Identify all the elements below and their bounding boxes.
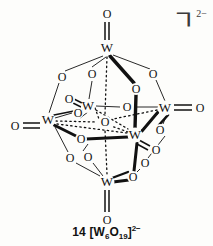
atom-label-w-right: W (159, 100, 172, 115)
bond-ob1-wleft (49, 83, 59, 113)
atom-label-o-bridge-2: O (88, 67, 97, 81)
atom-label-w-left: W (42, 112, 55, 127)
atom-label-o-bridge-5: O (74, 106, 83, 120)
atom-label-o-bridge-1: O (58, 70, 67, 84)
bond-ob2-wback (89, 81, 92, 99)
atom-label-o-bridge-12: O (129, 170, 138, 184)
atom-label-w-back: W (82, 98, 95, 113)
formula-o-subscript: 19 (119, 232, 128, 241)
bond-ob9-wbottom (76, 163, 100, 176)
atom-label-o-terminal-right: O (196, 101, 205, 115)
atom-label-o-bridge-11: O (141, 156, 150, 170)
atom-label-o-bridge-8: O (156, 123, 165, 137)
bond-wtop-ob3-bold (110, 56, 134, 83)
bond-wtop-ob2 (92, 57, 106, 67)
bond-wbottom-front-bold (112, 172, 128, 178)
bond-wleft-ocenter (56, 121, 97, 122)
caption-number: 14 (72, 225, 85, 239)
bond-ob3-wfront-bold (135, 95, 136, 128)
atom-label-o-bridge-10: O (84, 150, 93, 164)
bond-wback-ob6 (96, 106, 120, 107)
bond-wfront-ofront-b (137, 144, 148, 150)
atom-label-w-top: W (101, 40, 114, 55)
figure-container: ┐2− (0, 0, 213, 246)
bond-ob11-ob12 (137, 169, 140, 172)
atom-label-o-center: O (101, 115, 110, 129)
bond-ob4-wright (156, 80, 165, 101)
bridging-oxygen-group: O O O O O O O O O O O O (56, 67, 166, 184)
formula-o: O (109, 225, 118, 239)
bond-ob12-wbottom-bold (113, 180, 129, 182)
atom-label-o-terminal-front: O (152, 143, 161, 157)
atom-label-o-bridge-3: O (132, 82, 141, 96)
bond-wback-oback-a (74, 99, 82, 103)
bond-wfront-ob12-bold (134, 143, 137, 171)
atom-label-w-bottom: W (101, 174, 114, 189)
figure-caption: 14[W6O19]2− (0, 224, 213, 241)
atom-label-o-terminal-top: O (103, 7, 112, 21)
structure-drawing: W W W W W W O O O O O (0, 0, 213, 246)
atom-label-o-bridge-4: O (149, 67, 158, 81)
atom-label-w-front: W (129, 127, 142, 142)
formula-charge: 2− (132, 224, 141, 233)
atom-label-o-terminal-back: O (65, 92, 74, 106)
atom-label-o-terminal-left: O (11, 119, 20, 133)
atom-label-o-bridge-6: O (123, 100, 132, 114)
atom-label-o-bridge-9: O (66, 151, 75, 165)
central-oxygen-group: O (99, 115, 112, 129)
bond-wtop-ocenter (105, 57, 107, 114)
bond-ob7-wfront-bold (86, 137, 128, 139)
atom-label-o-bridge-7: O (77, 132, 86, 146)
formula-open: [W (90, 225, 105, 239)
